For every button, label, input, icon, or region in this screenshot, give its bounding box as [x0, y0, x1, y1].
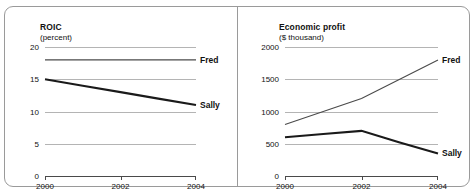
series-label-sally: Sally	[442, 148, 462, 158]
xtick-2002	[362, 177, 363, 180]
ytick-label-1000: 1000	[261, 107, 279, 116]
ytick-label-0: 0	[35, 172, 39, 181]
ytick-label-2000: 2000	[261, 43, 279, 52]
ytick-label-15: 15	[30, 75, 39, 84]
series-layer	[285, 47, 438, 176]
xtick-label-2002: 2002	[353, 182, 371, 191]
chart-panel-roic: ROIC (percent) 05101520200020022004FredS…	[4, 6, 237, 187]
ytick-label-10: 10	[30, 107, 39, 116]
series-label-fred: Fred	[442, 55, 460, 65]
xtick-2004	[437, 177, 438, 180]
chart-subtitle-roic: (percent)	[40, 33, 72, 42]
ytick-label-500: 500	[266, 139, 279, 148]
chart-panel-economic-profit: Economic profit ($ thousand) 05001000150…	[238, 6, 470, 187]
figure-root: ROIC (percent) 05101520200020022004FredS…	[0, 0, 475, 194]
xtick-2000	[45, 177, 46, 180]
ytick-label-5: 5	[35, 139, 39, 148]
series-label-sally: Sally	[200, 100, 220, 110]
series-line-fred	[285, 60, 438, 125]
xtick-2000	[285, 177, 286, 180]
chart-title-economic-profit: Economic profit	[279, 22, 345, 32]
series-label-fred: Fred	[200, 55, 218, 65]
plot-area-roic: 05101520200020022004FredSally	[45, 47, 196, 176]
series-line-sally	[45, 79, 196, 105]
chart-subtitle-economic-profit: ($ thousand)	[279, 33, 324, 42]
xtick-2004	[195, 177, 196, 180]
plot-area-economic-profit: 0500100015002000200020022004FredSally	[285, 47, 438, 176]
series-layer	[45, 47, 196, 176]
xtick-label-2000: 2000	[36, 182, 54, 191]
xtick-label-2004: 2004	[429, 182, 447, 191]
ytick-label-0: 0	[275, 172, 279, 181]
chart-title-roic: ROIC	[40, 22, 62, 32]
xtick-2002	[121, 177, 122, 180]
xtick-label-2000: 2000	[276, 182, 294, 191]
ytick-label-1500: 1500	[261, 75, 279, 84]
series-line-sally	[285, 131, 438, 154]
xtick-label-2004: 2004	[187, 182, 205, 191]
xtick-label-2002: 2002	[112, 182, 130, 191]
ytick-label-20: 20	[30, 43, 39, 52]
